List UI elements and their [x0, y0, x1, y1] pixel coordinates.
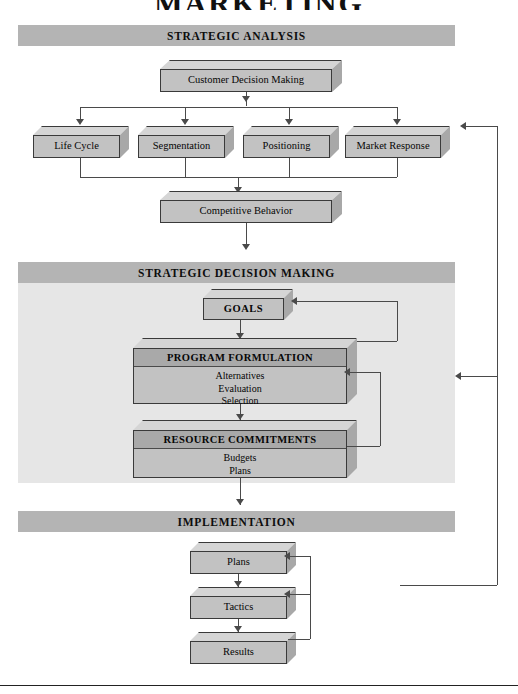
node-resource-commitments[interactable]: RESOURCE COMMITMENTS Budgets Plans [133, 420, 357, 478]
feedback-rc-to-pf-arrowline [350, 372, 380, 373]
node-results[interactable]: Results [190, 632, 296, 664]
box-face: Customer Decision Making [160, 69, 332, 92]
list-item: Evaluation [216, 383, 265, 396]
node-header: PROGRAM FORMULATION [134, 349, 346, 367]
node-tactics[interactable]: Tactics [190, 587, 296, 619]
feedback-results-vertical [310, 556, 311, 639]
node-label: Tactics [224, 601, 254, 613]
page-title: MARKETING [0, 0, 518, 10]
node-life-cycle[interactable]: Life Cycle [33, 126, 129, 158]
arrowhead-implementation [236, 499, 244, 505]
node-label: Positioning [263, 140, 311, 152]
node-label: Plans [227, 556, 250, 568]
feedback-pf-to-goals-horizontal [357, 341, 397, 342]
connector-segmentation-down [185, 158, 186, 177]
box-face: GOALS [203, 298, 284, 320]
node-header: RESOURCE COMMITMENTS [134, 431, 346, 449]
box-face: Positioning [243, 135, 330, 158]
arrowhead-tactics-feedback [284, 590, 290, 598]
banner-strategic-decision-making: STRATEGIC DECISION MAKING [18, 262, 455, 283]
page-bottom-rule [0, 685, 518, 686]
box-face: Life Cycle [33, 135, 120, 158]
feedback-results-horizontal [288, 639, 310, 640]
arrowhead-cdm [242, 96, 250, 102]
connector-market-response-down [397, 158, 398, 177]
node-competitive-behavior[interactable]: Competitive Behavior [160, 191, 342, 223]
box-face: Segmentation [138, 135, 225, 158]
list-item: Alternatives [216, 370, 265, 383]
list-item: Plans [224, 465, 257, 478]
node-label: Segmentation [153, 140, 211, 152]
banner-strategic-analysis: STRATEGIC ANALYSIS [18, 25, 455, 46]
banner-strategic-analysis-label: STRATEGIC ANALYSIS [167, 30, 306, 42]
arrowhead-life-cycle [76, 119, 84, 125]
connector-life-cycle-down [80, 158, 81, 177]
connector-bus-horizontal [80, 107, 397, 108]
banner-implementation-label: IMPLEMENTATION [178, 516, 296, 528]
global-feedback-to-sdm [461, 376, 497, 377]
arrowhead-plans-feedback [284, 552, 290, 560]
arrowhead-segmentation [181, 119, 189, 125]
arrowhead-global-feedback-sdm [455, 372, 461, 380]
box-face: PROGRAM FORMULATION Alternatives Evaluat… [133, 348, 347, 404]
global-feedback-top-horizontal [466, 126, 497, 127]
global-feedback-vertical [497, 126, 498, 585]
box-face: Market Response [345, 135, 441, 158]
node-label: Customer Decision Making [188, 74, 304, 86]
banner-sdm-label: STRATEGIC DECISION MAKING [138, 267, 335, 279]
feedback-rc-to-pf-horizontal [347, 446, 380, 447]
node-market-response[interactable]: Market Response [345, 126, 450, 158]
arrowhead-sdm [242, 244, 250, 250]
global-feedback-bottom-horizontal [400, 585, 497, 586]
box-face: Competitive Behavior [160, 200, 332, 223]
node-label: Results [223, 646, 254, 658]
node-program-formulation[interactable]: PROGRAM FORMULATION Alternatives Evaluat… [133, 338, 357, 404]
node-body: Budgets Plans [224, 449, 257, 479]
diagram-canvas: MARKETING STRATEGIC ANALYSIS Customer De… [0, 0, 518, 694]
node-segmentation[interactable]: Segmentation [138, 126, 234, 158]
arrowhead-positioning [285, 119, 293, 125]
box-face: Results [190, 641, 287, 664]
arrowhead-global-feedback-top [460, 122, 466, 130]
box-face: Plans [190, 551, 287, 574]
connector-positioning-down [289, 158, 290, 177]
arrowhead-pf-feedback [344, 368, 350, 376]
node-customer-decision-making[interactable]: Customer Decision Making [160, 60, 352, 92]
feedback-results-to-tactics [290, 594, 310, 595]
feedback-results-to-plans [290, 556, 310, 557]
feedback-pf-to-goals-arrowline [297, 301, 397, 302]
box-side-bevel [347, 420, 358, 478]
node-label: Market Response [356, 140, 429, 152]
banner-implementation: IMPLEMENTATION [18, 511, 455, 532]
box-face: RESOURCE COMMITMENTS Budgets Plans [133, 430, 347, 478]
arrowhead-market-response [393, 119, 401, 125]
node-label: Life Cycle [54, 140, 99, 152]
feedback-pf-to-goals-vertical [397, 301, 398, 341]
node-label: GOALS [224, 303, 263, 315]
box-face: Tactics [190, 596, 287, 619]
list-item: Budgets [224, 452, 257, 465]
node-positioning[interactable]: Positioning [243, 126, 339, 158]
arrowhead-goals-feedback [291, 297, 297, 305]
feedback-rc-to-pf-vertical [380, 372, 381, 446]
node-goals[interactable]: GOALS [203, 289, 293, 320]
node-label: Competitive Behavior [199, 205, 292, 217]
node-plans[interactable]: Plans [190, 542, 296, 574]
